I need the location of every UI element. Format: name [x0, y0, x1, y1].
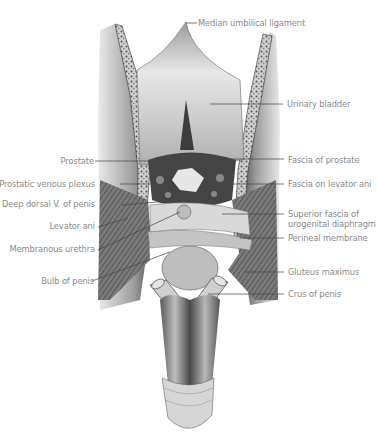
label-median-umbilical-ligament: Median umbilical ligament — [198, 18, 305, 28]
label-superior-fascia-line1: Superior fascia of — [288, 209, 359, 219]
label-gluteus-maximus: Gluteus maximus — [288, 267, 359, 277]
label-prostate: Prostate — [61, 156, 94, 166]
membranous-urethra — [177, 205, 191, 219]
label-urinary-bladder: Urinary bladder — [287, 99, 350, 109]
anatomy-figure: Median umbilical ligament Urinary bladde… — [0, 0, 377, 445]
label-fascia-on-levator-ani: Fascia on levator ani — [288, 179, 371, 189]
label-deep-dorsal-vein: Deep dorsal V. of penis — [2, 199, 95, 209]
label-membranous-urethra: Membranous urethra — [10, 244, 95, 254]
label-levator-ani: Levator ani — [49, 221, 95, 231]
penile-shaft — [160, 295, 220, 390]
label-crus-of-penis: Crus of penis — [288, 289, 341, 299]
label-perineal-membrane: Perineal membrane — [288, 233, 368, 243]
label-fascia-of-prostate: Fascia of prostate — [288, 155, 359, 165]
glans — [162, 378, 214, 428]
label-superior-fascia-line2: urogenital diaphragm — [288, 219, 376, 229]
label-prostatic-venous-plexus: Prostatic venous plexus — [0, 179, 95, 189]
label-bulb-of-penis: Bulb of penis — [41, 276, 94, 286]
